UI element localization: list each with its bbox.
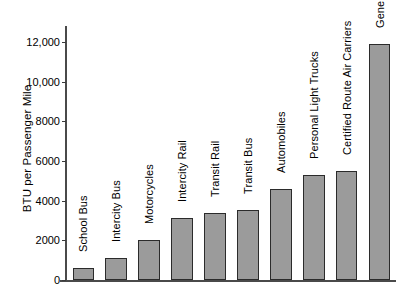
y-tick-label: 6000 bbox=[14, 155, 60, 167]
y-tick-label: 0 bbox=[14, 274, 60, 286]
y-axis-tick-labels: 0200040006000800010,00012,000 bbox=[12, 0, 60, 297]
y-tick-mark bbox=[62, 42, 66, 43]
bar-category-label: Certified Route Air Carriers bbox=[341, 21, 353, 155]
bar-category-label: School Bus bbox=[77, 195, 89, 252]
bar-category-label: Intercity Bus bbox=[110, 180, 122, 242]
y-tick-label: 10,000 bbox=[14, 76, 60, 88]
bar-category-label: Transit Bus bbox=[242, 137, 254, 193]
bar-group: General Aviation bbox=[369, 26, 391, 280]
bar bbox=[73, 268, 95, 280]
bar-chart: BTU per Passenger Mile 02000400060008000… bbox=[0, 0, 400, 297]
bar bbox=[336, 171, 358, 280]
bar bbox=[270, 189, 292, 280]
bar-group: Transit Rail bbox=[204, 26, 226, 280]
bar-category-label: Personal Light Trucks bbox=[308, 51, 320, 159]
bar bbox=[138, 240, 160, 280]
bar bbox=[237, 210, 259, 280]
bar-group: Intercity Bus bbox=[105, 26, 127, 280]
y-tick-label: 8000 bbox=[14, 115, 60, 127]
bar bbox=[105, 258, 127, 280]
bar bbox=[204, 213, 226, 280]
bar-category-label: General Aviation bbox=[374, 0, 386, 28]
bar-category-label: Automobiles bbox=[275, 111, 287, 173]
y-tick-label: 12,000 bbox=[14, 36, 60, 48]
bar-group: School Bus bbox=[73, 26, 95, 280]
plot-area: School BusIntercity BusMotorcyclesInterc… bbox=[67, 26, 396, 280]
bar-group: Motorcycles bbox=[138, 26, 160, 280]
bar-category-label: Motorcycles bbox=[143, 165, 155, 225]
bar-group: Intercity Rail bbox=[171, 26, 193, 280]
bar-category-label: Intercity Rail bbox=[176, 141, 188, 203]
y-tick-mark bbox=[62, 161, 66, 162]
bar-group: Certified Route Air Carriers bbox=[336, 26, 358, 280]
bar-group: Transit Bus bbox=[237, 26, 259, 280]
bar bbox=[171, 218, 193, 280]
bar bbox=[369, 44, 391, 280]
y-tick-mark bbox=[62, 82, 66, 83]
bar-category-label: Transit Rail bbox=[209, 140, 221, 196]
y-tick-label: 2000 bbox=[14, 234, 60, 246]
y-tick-label: 4000 bbox=[14, 195, 60, 207]
bar bbox=[303, 175, 325, 280]
y-tick-mark bbox=[62, 121, 66, 122]
y-tick-mark bbox=[62, 201, 66, 202]
y-tick-mark bbox=[62, 280, 66, 281]
bar-group: Personal Light Trucks bbox=[303, 26, 325, 280]
y-tick-mark bbox=[62, 240, 66, 241]
x-axis-line bbox=[60, 280, 396, 282]
bar-group: Automobiles bbox=[270, 26, 292, 280]
